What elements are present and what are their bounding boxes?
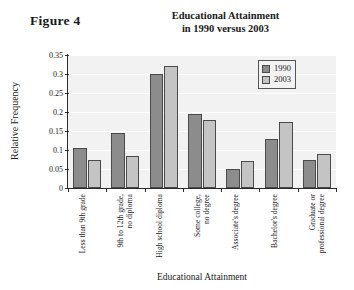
x-axis-tick-label: Associate's degree bbox=[231, 194, 240, 250]
x-axis-tick bbox=[145, 188, 146, 192]
y-axis-tick-label: 0 bbox=[59, 184, 63, 193]
x-axis-tick bbox=[183, 188, 184, 192]
y-axis-tick-label: 0.2 bbox=[53, 108, 63, 117]
y-axis-tick-label: 0.15 bbox=[49, 127, 63, 136]
chart-legend: 1990 2003 bbox=[258, 60, 296, 89]
x-axis-tick bbox=[221, 188, 222, 192]
legend-label-1990: 1990 bbox=[274, 64, 291, 73]
x-tick-label-line: Graduate or bbox=[308, 194, 317, 230]
legend-swatch-1990 bbox=[262, 65, 270, 73]
y-axis-tick-label: 0.25 bbox=[49, 89, 63, 98]
bar-2003-5 bbox=[241, 161, 255, 188]
x-tick-label-line: High school diploma bbox=[155, 194, 164, 258]
bar-1990-4 bbox=[188, 114, 202, 188]
y-axis-tick-label: 0.1 bbox=[53, 146, 63, 155]
bar-2003-6 bbox=[279, 122, 293, 189]
y-axis-label: Relative Frequency bbox=[9, 82, 20, 160]
x-axis-label: Educational Attainment bbox=[68, 272, 336, 282]
x-axis-tick-label: Some college,no degree bbox=[193, 194, 211, 237]
bar-2003-7 bbox=[317, 154, 331, 188]
x-axis-tick bbox=[298, 188, 299, 192]
x-tick-label-line: no diploma bbox=[125, 194, 134, 248]
legend-item: 1990 bbox=[262, 63, 291, 74]
x-axis-tick-label: Bachelor's degree bbox=[270, 194, 279, 248]
bar-1990-1 bbox=[73, 148, 87, 188]
bar-2003-1 bbox=[88, 160, 102, 189]
x-axis-line bbox=[67, 188, 336, 189]
y-axis-tick-label: 0.35 bbox=[49, 51, 63, 60]
x-axis-tick bbox=[259, 188, 260, 192]
x-tick-label-line: Less than 9th grade bbox=[78, 194, 87, 253]
bar-1990-2 bbox=[111, 133, 125, 188]
x-axis-tick-label: 9th to 12th grade,no diploma bbox=[116, 194, 134, 248]
x-tick-label-line: Associate's degree bbox=[231, 194, 240, 250]
x-tick-label-line: no degree bbox=[202, 194, 211, 237]
x-axis-tick bbox=[68, 188, 69, 192]
figure-header: Figure 4 Educational Attainment in 1990 … bbox=[0, 6, 354, 46]
bar-2003-2 bbox=[126, 156, 140, 188]
x-tick-label-line: Some college, bbox=[193, 194, 202, 237]
bar-1990-3 bbox=[150, 74, 164, 188]
x-axis-tick-label: Less than 9th grade bbox=[78, 194, 87, 253]
legend-label-2003: 2003 bbox=[274, 75, 291, 84]
x-axis-tick-label: High school diploma bbox=[155, 194, 164, 258]
bar-2003-4 bbox=[203, 120, 217, 188]
bar-2003-3 bbox=[164, 66, 178, 188]
figure-root: Figure 4 Educational Attainment in 1990 … bbox=[0, 0, 354, 290]
chart-title-line-2: in 1990 versus 2003 bbox=[118, 23, 333, 36]
legend-swatch-2003 bbox=[262, 76, 270, 84]
chart-title: Educational Attainment in 1990 versus 20… bbox=[118, 10, 333, 35]
chart-title-line-1: Educational Attainment bbox=[118, 10, 333, 23]
x-axis-tick bbox=[106, 188, 107, 192]
y-axis-line bbox=[67, 54, 68, 189]
y-axis-tick-label: 0.05 bbox=[49, 165, 63, 174]
legend-item: 2003 bbox=[262, 74, 291, 85]
x-axis-tick bbox=[336, 188, 337, 192]
y-axis-tick-label: 0.3 bbox=[53, 70, 63, 79]
bar-1990-6 bbox=[265, 139, 279, 188]
bar-1990-7 bbox=[303, 160, 317, 189]
x-tick-label-line: professional degree bbox=[317, 194, 326, 253]
x-tick-label-line: Bachelor's degree bbox=[270, 194, 279, 248]
figure-label: Figure 4 bbox=[30, 13, 81, 29]
bar-1990-5 bbox=[226, 169, 240, 188]
x-axis-tick-label: Graduate orprofessional degree bbox=[308, 194, 326, 253]
